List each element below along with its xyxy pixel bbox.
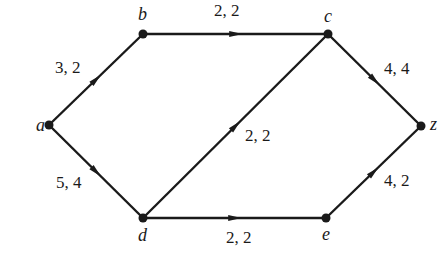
edge-label: 3, 2	[55, 58, 81, 77]
edge-label: 2, 2	[245, 126, 271, 145]
edge-label: 4, 4	[384, 59, 410, 78]
edge-label: 4, 2	[384, 171, 410, 190]
node-label: c	[324, 6, 332, 26]
node-d	[139, 214, 148, 223]
arrow-icon	[229, 31, 242, 37]
node-label: b	[138, 4, 147, 24]
node-label: d	[138, 225, 148, 245]
node-a	[45, 121, 54, 130]
node-z	[417, 122, 426, 131]
arrow-icon	[228, 215, 241, 221]
node-label: a	[36, 115, 45, 135]
node-b	[139, 30, 148, 39]
node-label: e	[322, 224, 330, 244]
edge-label: 5, 4	[56, 173, 82, 192]
edge-label: 2, 2	[226, 228, 252, 247]
node-c	[324, 30, 333, 39]
node-label: z	[429, 114, 437, 134]
edge-label: 2, 2	[214, 1, 240, 20]
node-e	[322, 214, 331, 223]
flow-network-diagram: 3, 22, 24, 45, 42, 22, 24, 2abczde	[0, 0, 443, 255]
